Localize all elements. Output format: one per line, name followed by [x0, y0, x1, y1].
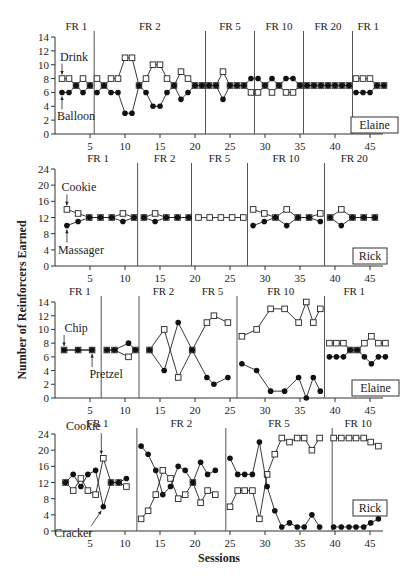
data-point-open-square	[161, 327, 167, 333]
data-point-filled-circle	[227, 83, 233, 89]
data-point-filled-circle	[353, 524, 359, 530]
data-point-open-square	[334, 340, 340, 346]
data-point-filled-circle	[295, 215, 301, 221]
data-point-open-square	[262, 211, 268, 217]
data-point-open-square	[353, 76, 359, 82]
data-point-open-square	[235, 488, 241, 494]
data-point-filled-circle	[70, 472, 76, 478]
data-point-filled-circle	[346, 524, 352, 530]
data-point-filled-circle	[361, 524, 367, 530]
phase-label: FR 5	[202, 285, 224, 297]
data-point-open-square	[160, 468, 166, 474]
svg-text:10: 10	[120, 272, 132, 284]
svg-text:5: 5	[87, 404, 93, 416]
svg-text:20: 20	[38, 444, 50, 456]
data-point-open-square	[360, 76, 366, 82]
phase-label: FR 10	[267, 285, 295, 297]
data-point-filled-circle	[75, 347, 81, 353]
panel-4: 0481216202451015202530354045FR 1FR 2FR 5…	[38, 417, 387, 549]
svg-text:20: 20	[38, 179, 50, 191]
data-point-open-square	[317, 435, 323, 441]
data-point-filled-circle	[284, 223, 290, 229]
data-point-open-square	[318, 211, 324, 217]
data-point-open-square	[122, 55, 128, 61]
data-point-filled-circle	[141, 215, 147, 221]
data-point-filled-circle	[204, 375, 210, 381]
data-point-filled-circle	[73, 83, 79, 89]
svg-text:35: 35	[295, 272, 307, 284]
data-point-filled-circle	[112, 347, 118, 353]
data-point-filled-circle	[248, 76, 254, 82]
series-label: Cookie	[66, 419, 101, 433]
svg-text:5: 5	[87, 140, 93, 152]
data-point-filled-circle	[66, 90, 72, 96]
phase-label: FR 1	[357, 20, 379, 32]
svg-text:10: 10	[120, 404, 132, 416]
data-point-open-square	[66, 76, 72, 82]
data-point-filled-circle	[80, 90, 86, 96]
data-point-open-square	[225, 320, 231, 326]
data-point-open-square	[182, 492, 188, 498]
data-point-open-square	[318, 306, 324, 312]
data-point-filled-circle	[273, 215, 279, 221]
data-point-filled-circle	[85, 472, 91, 478]
data-point-filled-circle	[104, 347, 110, 353]
data-point-filled-circle	[220, 97, 226, 103]
data-point-filled-circle	[283, 76, 289, 82]
data-point-filled-circle	[211, 381, 217, 387]
data-point-filled-circle	[153, 468, 159, 474]
data-point-filled-circle	[368, 520, 374, 526]
data-point-filled-circle	[242, 472, 248, 478]
data-point-filled-circle	[294, 524, 300, 530]
data-point-open-square	[78, 476, 84, 482]
data-point-filled-circle	[126, 340, 132, 346]
data-point-filled-circle	[360, 90, 366, 96]
svg-text:15: 15	[155, 140, 167, 152]
data-point-open-square	[239, 333, 245, 339]
svg-text:8: 8	[44, 493, 50, 505]
data-point-open-square	[255, 90, 261, 96]
data-point-filled-circle	[381, 83, 387, 89]
data-point-open-square	[229, 215, 235, 221]
data-point-open-square	[70, 488, 76, 494]
data-point-filled-circle	[374, 83, 380, 89]
data-point-open-square	[290, 90, 296, 96]
data-point-filled-circle	[297, 83, 303, 89]
data-point-filled-circle	[150, 103, 156, 109]
data-point-filled-circle	[311, 83, 317, 89]
data-point-open-square	[85, 488, 91, 494]
data-point-filled-circle	[276, 83, 282, 89]
data-point-open-square	[311, 320, 317, 326]
data-point-filled-circle	[282, 388, 288, 394]
subject-label: Rick	[359, 249, 382, 263]
data-point-filled-circle	[131, 215, 137, 221]
data-point-filled-circle	[59, 90, 65, 96]
data-point-open-square	[143, 76, 149, 82]
data-point-filled-circle	[376, 354, 382, 360]
data-point-filled-circle	[164, 215, 170, 221]
svg-text:45: 45	[365, 537, 377, 549]
panel-2: 0481216202451015202530354045FR 1FR 2FR 5…	[38, 152, 387, 284]
panel-1: 0246810121451015202530354045FR 1FR 2FR 5…	[38, 20, 398, 152]
data-point-filled-circle	[241, 83, 247, 89]
svg-text:20: 20	[190, 404, 202, 416]
svg-text:0: 0	[44, 525, 50, 537]
series-label: Cookie	[62, 180, 97, 194]
svg-text:20: 20	[190, 537, 202, 549]
data-point-filled-circle	[250, 223, 256, 229]
svg-text:2: 2	[44, 114, 50, 126]
data-point-open-square	[164, 76, 170, 82]
svg-text:10: 10	[38, 323, 50, 335]
data-point-open-square	[227, 504, 233, 510]
phase-label: FR 10	[272, 152, 300, 164]
data-point-filled-circle	[353, 90, 359, 96]
data-point-open-square	[294, 435, 300, 441]
data-point-open-square	[362, 340, 368, 346]
data-point-filled-circle	[101, 504, 107, 510]
y-axis-title: Number of Reinforcers Earned	[15, 220, 29, 380]
data-point-open-square	[248, 90, 254, 96]
data-point-filled-circle	[78, 484, 84, 490]
data-point-filled-circle	[339, 83, 345, 89]
data-point-filled-circle	[147, 347, 153, 353]
data-point-filled-circle	[205, 472, 211, 478]
